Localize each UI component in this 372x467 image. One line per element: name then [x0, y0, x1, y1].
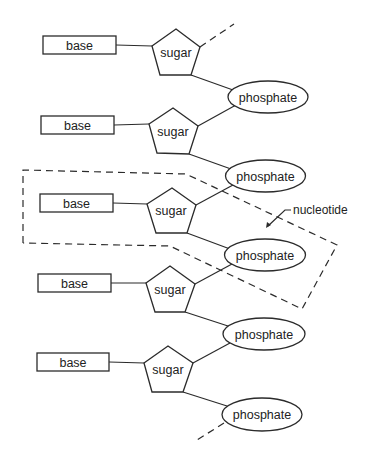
nucleotide-unit-1: base sugar phosphate	[43, 29, 308, 113]
nucleotide-annotation: nucleotide	[266, 203, 348, 228]
sugar-label: sugar	[160, 46, 191, 60]
base-label: base	[64, 119, 91, 133]
nucleotide-unit-4: base sugar phosphate	[38, 266, 305, 350]
base-label: base	[59, 356, 86, 370]
phosphate-label: phosphate	[233, 408, 291, 422]
base-label: base	[61, 277, 88, 291]
base-label: base	[66, 39, 93, 53]
phosphate-label: phosphate	[235, 328, 293, 342]
nucleotide-unit-3: base sugar phosphate	[40, 188, 306, 271]
base-label: base	[63, 197, 90, 211]
sugar-label: sugar	[154, 283, 185, 297]
sugar-label: sugar	[157, 125, 188, 139]
nucleotide-unit-5: base sugar phosphate	[37, 346, 302, 431]
nucleotide-unit-2: base sugar phosphate	[41, 108, 306, 192]
strand-continuation-bottom	[197, 423, 224, 440]
strand-continuation-top	[200, 24, 234, 47]
dna-strand-diagram: base sugar phosphate base sugar phosphat…	[0, 0, 372, 467]
nucleotide-label: nucleotide	[293, 203, 348, 217]
phosphate-label: phosphate	[236, 249, 294, 263]
arrowhead-icon	[266, 222, 271, 228]
sugar-label: sugar	[155, 204, 186, 218]
sugar-label: sugar	[152, 363, 183, 377]
phosphate-label: phosphate	[236, 170, 294, 184]
phosphate-label: phosphate	[239, 91, 297, 105]
